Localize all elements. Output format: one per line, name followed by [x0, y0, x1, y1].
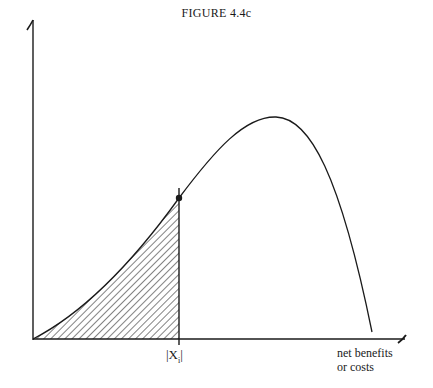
x-axis-label: net benefits or costs	[337, 346, 393, 374]
x-axis-label-line2: or costs	[337, 360, 393, 374]
xi-label: |Xi|	[166, 347, 183, 365]
figure-diagram	[0, 0, 433, 388]
xi-marker-dot	[176, 195, 182, 201]
hatched-area	[33, 190, 181, 340]
y-axis	[27, 20, 33, 340]
y-axis-arrow-icon	[27, 20, 33, 30]
x-axis-label-line1: net benefits	[337, 346, 393, 360]
